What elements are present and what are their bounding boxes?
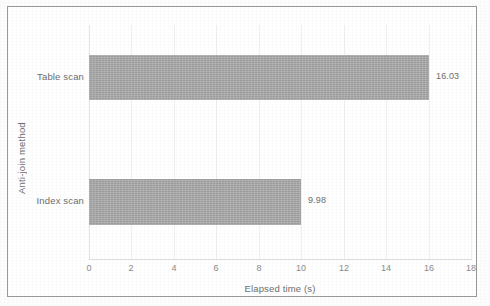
gridline-16	[429, 25, 430, 259]
gridline-18	[471, 25, 472, 259]
bar-value-label-index-scan: 9.98	[308, 195, 326, 205]
bar-value-label-table-scan: 16.03	[436, 71, 459, 81]
x-tick-2: 2	[128, 263, 133, 273]
x-axis-title: Elapsed time (s)	[89, 283, 471, 294]
category-label-index-scan: Index scan	[37, 195, 84, 206]
x-tick-16: 16	[424, 263, 434, 273]
x-tick-0: 0	[86, 263, 91, 273]
chart-figure: Anti-join method Table scan Index scan 1…	[0, 0, 490, 306]
x-tick-12: 12	[339, 263, 349, 273]
bar-index-scan	[89, 179, 301, 225]
x-tick-4: 4	[171, 263, 176, 273]
chart-frame: Anti-join method Table scan Index scan 1…	[7, 6, 477, 297]
x-tick-6: 6	[213, 263, 218, 273]
x-tick-10: 10	[296, 263, 306, 273]
category-axis: Table scan Index scan	[8, 25, 84, 259]
x-tick-14: 14	[381, 263, 391, 273]
x-tick-18: 18	[466, 263, 476, 273]
category-label-table-scan: Table scan	[37, 71, 84, 82]
x-tick-8: 8	[256, 263, 261, 273]
plot-area: 16.03 9.98	[89, 25, 471, 259]
x-axis-line	[89, 259, 472, 260]
x-axis-tick-labels: 0 2 4 6 8 10 12 14 16 18	[89, 263, 471, 277]
bar-table-scan	[89, 55, 429, 100]
